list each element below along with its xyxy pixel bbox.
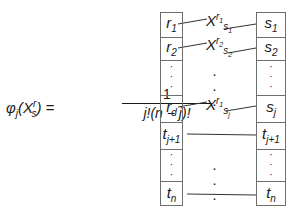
mid-ellipsis-2: ··· — [212, 160, 217, 205]
left-cell-tj1: tj+1 — [161, 122, 182, 149]
mid-label-2: Xr2s2 — [206, 36, 232, 58]
right-cell-ellipsis: ··· — [257, 60, 285, 95]
left-cell-r2: r2 — [161, 37, 182, 60]
left-column: r1 r2 ··· rd tj+1 ··· tn — [160, 12, 183, 206]
mid-label-j: Xr1sj — [206, 96, 230, 118]
left-cell-tn: tn — [161, 181, 182, 207]
right-cell-tj1: tj+1 — [257, 122, 285, 149]
left-cell-ellipsis-2: ··· — [161, 149, 182, 181]
left-cell-r1: r1 — [161, 13, 182, 37]
right-cell-tn: tn — [257, 181, 285, 207]
left-cell-rd: rd — [161, 95, 182, 122]
mid-label-1: Xr1s1 — [206, 12, 232, 34]
right-cell-sj: sj — [257, 95, 285, 122]
right-column: s1 s2 ··· sj tj+1 ··· tn — [256, 12, 286, 206]
right-cell-ellipsis-2: ··· — [257, 149, 285, 181]
right-cell-s2: s2 — [257, 37, 285, 60]
right-cell-s1: s1 — [257, 13, 285, 37]
left-cell-ellipsis: ··· — [161, 60, 182, 95]
